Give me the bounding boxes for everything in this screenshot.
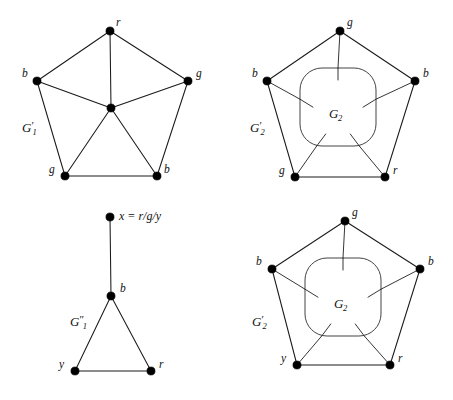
spoke-edge bbox=[364, 336, 390, 365]
spoke-stub bbox=[317, 134, 326, 146]
vertex-label-g: g bbox=[196, 68, 202, 80]
graph-edge bbox=[340, 31, 415, 81]
vertex-label-r: r bbox=[159, 359, 163, 371]
spoke-edge bbox=[359, 146, 385, 177]
vertex-label-b: b bbox=[423, 68, 429, 80]
panel-label-subscript: 1 bbox=[83, 321, 87, 331]
graph-edge bbox=[111, 81, 188, 108]
graph-edge bbox=[272, 221, 345, 269]
vertex-label-g: g bbox=[347, 17, 353, 29]
panel-top-left bbox=[33, 27, 192, 180]
panel-label-top-right: G′2 bbox=[250, 121, 266, 134]
panel-label-bottom-right: G′2 bbox=[252, 315, 268, 328]
panel-label-base: G bbox=[252, 314, 261, 329]
graph-vertex-b[interactable] bbox=[263, 77, 271, 85]
graph-edge bbox=[37, 81, 65, 176]
panel-label-base: G bbox=[22, 120, 31, 135]
panel-bottom-left bbox=[71, 213, 155, 375]
vertex-label-g: g bbox=[352, 207, 358, 219]
spoke-stub bbox=[322, 324, 331, 336]
graph-edge bbox=[110, 31, 188, 81]
spoke-stub bbox=[300, 99, 313, 107]
panel-label-base: G bbox=[70, 314, 79, 329]
spoke-stub bbox=[368, 289, 381, 297]
vertex-equation-label: x = r/g/y bbox=[119, 210, 161, 222]
graph-edge bbox=[267, 81, 295, 177]
graph-vertex-g[interactable] bbox=[61, 172, 69, 180]
inner-graph-label-subscript: 2 bbox=[338, 113, 342, 123]
graph-edge bbox=[110, 217, 111, 296]
spoke-edge bbox=[295, 146, 317, 177]
panel-label-subscript: 2 bbox=[263, 321, 267, 331]
graph-edge bbox=[390, 269, 420, 365]
inner-graph-label-subscript: 2 bbox=[343, 303, 347, 313]
inner-graph-label-base: G bbox=[334, 296, 343, 311]
graph-vertex-y[interactable] bbox=[71, 367, 79, 375]
vertex-label-b: b bbox=[252, 68, 258, 80]
graph-edge bbox=[111, 296, 151, 371]
graph-edge bbox=[111, 108, 157, 176]
spoke-edge bbox=[297, 336, 322, 365]
vertex-label-b: b bbox=[22, 68, 28, 80]
inner-graph-label-base: G bbox=[329, 106, 338, 121]
vertex-label-g: g bbox=[49, 164, 55, 176]
panel-label-base: G bbox=[250, 120, 259, 135]
graph-vertex-r[interactable] bbox=[381, 173, 389, 181]
spoke-stub bbox=[363, 99, 376, 107]
inner-graph-label: G2 bbox=[334, 297, 348, 310]
graph-vertex-g[interactable] bbox=[336, 27, 344, 35]
spoke-edge bbox=[343, 221, 345, 258]
vertex-label-y: y bbox=[281, 353, 286, 365]
spoke-edge bbox=[338, 31, 340, 68]
panel-bottom-right bbox=[268, 217, 424, 369]
graph-vertex-g[interactable] bbox=[291, 173, 299, 181]
graph-edge bbox=[110, 31, 111, 108]
graph-vertex-r[interactable] bbox=[147, 367, 155, 375]
graph-vertex-b[interactable] bbox=[153, 172, 161, 180]
graph-vertex-y[interactable] bbox=[293, 361, 301, 369]
graph-vertex-x-top[interactable] bbox=[106, 213, 114, 221]
spoke-stub bbox=[305, 289, 318, 297]
graph-vertex-b[interactable] bbox=[268, 265, 276, 273]
graph-svg-layer bbox=[0, 0, 453, 400]
graph-vertex-b[interactable] bbox=[416, 265, 424, 273]
graph-vertex-b[interactable] bbox=[411, 77, 419, 85]
spoke-edge bbox=[376, 81, 415, 99]
graph-edge bbox=[65, 108, 111, 176]
graph-vertex-b[interactable] bbox=[33, 77, 41, 85]
vertex-label-b: b bbox=[120, 283, 126, 295]
vertex-label-b: b bbox=[164, 164, 170, 176]
spoke-stub bbox=[350, 134, 359, 146]
vertex-label-b: b bbox=[428, 256, 434, 268]
vertex-label-b: b bbox=[256, 256, 262, 268]
graph-vertex-center[interactable] bbox=[107, 104, 115, 112]
graph-vertex-r[interactable] bbox=[106, 27, 114, 35]
graph-vertex-g[interactable] bbox=[184, 77, 192, 85]
graph-vertex-r[interactable] bbox=[386, 361, 394, 369]
vertex-label-g: g bbox=[279, 165, 285, 177]
vertex-label-r: r bbox=[116, 17, 120, 29]
spoke-stub bbox=[355, 324, 364, 336]
figure-canvas: rbggbG′1gbbgrG′2G2byrG″1x = r/g/ygbbyrG′… bbox=[0, 0, 453, 400]
graph-edge bbox=[37, 81, 111, 108]
graph-edge bbox=[345, 221, 420, 269]
panel-label-bottom-left: G″1 bbox=[70, 315, 88, 328]
vertex-label-y: y bbox=[59, 359, 64, 371]
graph-vertex-g[interactable] bbox=[341, 217, 349, 225]
graph-edge bbox=[267, 31, 340, 81]
graph-edge bbox=[385, 81, 415, 177]
graph-edge bbox=[157, 81, 188, 176]
graph-vertex-b[interactable] bbox=[107, 292, 115, 300]
panel-label-top-left: G′1 bbox=[22, 121, 38, 134]
inner-graph-label: G2 bbox=[329, 107, 343, 120]
panel-label-subscript: 2 bbox=[261, 127, 265, 137]
panel-label-subscript: 1 bbox=[33, 127, 37, 137]
graph-edge bbox=[272, 269, 297, 365]
panel-top-right bbox=[263, 27, 419, 181]
graph-edge bbox=[75, 296, 111, 371]
graph-edge bbox=[37, 31, 110, 81]
vertex-label-r: r bbox=[393, 165, 397, 177]
vertex-label-r: r bbox=[398, 353, 402, 365]
